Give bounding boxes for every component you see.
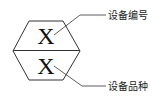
equipment-type-symbol: X xyxy=(37,53,54,79)
label-equipment-type: 设备品种 xyxy=(108,80,148,92)
equipment-marker-diagram: X X 设备编号 设备品种 xyxy=(0,0,161,98)
leader-line-bottom xyxy=(54,66,106,86)
leader-line-top xyxy=(54,15,106,35)
label-equipment-number: 设备编号 xyxy=(108,9,148,21)
equipment-number-symbol: X xyxy=(37,23,54,49)
